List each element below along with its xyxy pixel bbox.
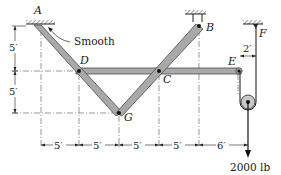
support-b: [185, 10, 206, 22]
dim-v-2: 5′: [9, 86, 18, 97]
dim-v-1: 5′: [9, 42, 18, 53]
pin-g: [117, 111, 121, 115]
label-f: F: [258, 27, 267, 40]
pin-c: [157, 69, 161, 73]
dim-h-1: 5′: [54, 140, 63, 151]
label-g: G: [124, 111, 133, 124]
pin-b: [197, 24, 201, 28]
smooth-label: Smooth: [74, 35, 115, 47]
load-label: 2000 lb: [230, 161, 270, 173]
label-a: A: [33, 4, 42, 17]
members: [34, 24, 242, 116]
label-d: D: [79, 54, 89, 67]
vertical-dimensions: [12, 26, 26, 113]
dim-h-5: 6′: [217, 140, 226, 151]
label-e: E: [227, 55, 236, 68]
pin-d: [77, 69, 81, 73]
construction-lines: [12, 30, 238, 148]
load-arrow-icon: [245, 150, 251, 158]
frame-diagram: A B C D E F G Smooth 2000 lb 5′ 5′ 5′ 5′…: [0, 0, 281, 175]
support-a: [26, 20, 55, 24]
label-c: C: [163, 73, 172, 86]
dim-h-4: 5′: [173, 140, 182, 151]
label-b: B: [205, 21, 214, 34]
dim-h-2: 5′: [93, 140, 102, 151]
dim-offset: 2′: [243, 43, 252, 54]
dim-h-3: 5′: [133, 140, 142, 151]
